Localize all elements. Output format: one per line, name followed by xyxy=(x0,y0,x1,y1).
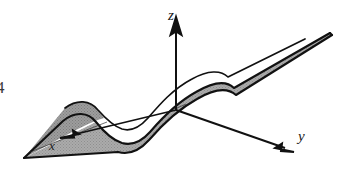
edge-right-tip xyxy=(330,33,332,35)
figure-number-fragment: 4 xyxy=(0,79,5,96)
figure-canvas: z y x 4 xyxy=(0,0,339,181)
y-axis-label: y xyxy=(298,129,305,144)
surface-diagram-svg xyxy=(0,0,339,181)
y-axis xyxy=(176,110,294,152)
surface-gray-tail-right xyxy=(234,33,332,95)
x-axis-label: x xyxy=(49,139,55,152)
y-axis-line xyxy=(176,110,285,148)
z-axis-label: z xyxy=(168,8,174,23)
